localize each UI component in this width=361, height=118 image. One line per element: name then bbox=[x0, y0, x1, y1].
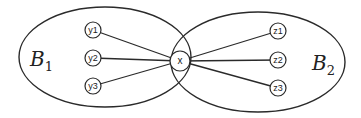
edge-x-z3 bbox=[180, 61, 278, 88]
node-z1-label: z1 bbox=[273, 26, 283, 36]
set-graph-diagram: y1y2y3z1z2z3x B1B2 bbox=[0, 0, 361, 118]
node-y1-label: y1 bbox=[88, 25, 98, 35]
edge-x-y2 bbox=[93, 58, 180, 61]
set-b1-label: B1 bbox=[29, 47, 53, 74]
set-b2-label: B2 bbox=[311, 51, 335, 78]
edge-x-y1 bbox=[93, 30, 180, 61]
node-z3-label: z3 bbox=[273, 83, 283, 93]
edge-x-z1 bbox=[180, 31, 278, 61]
edge-x-y3 bbox=[93, 61, 180, 86]
set-b1-ellipse bbox=[19, 7, 191, 107]
node-x-label: x bbox=[178, 55, 183, 66]
node-y2-label: y2 bbox=[88, 53, 98, 63]
node-z2-label: z2 bbox=[273, 55, 283, 65]
edge-x-z2 bbox=[180, 60, 278, 61]
node-y3-label: y3 bbox=[88, 81, 98, 91]
